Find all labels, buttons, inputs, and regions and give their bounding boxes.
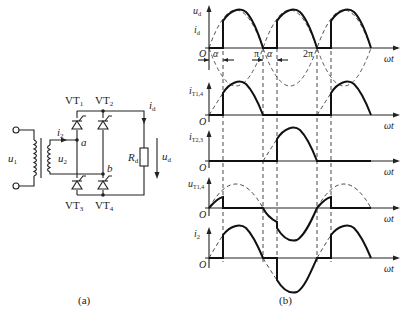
label-u2: u2	[58, 152, 68, 166]
svg-text:ωt: ωt	[384, 120, 394, 131]
tick-2pi: 2π	[303, 48, 313, 59]
x-label: ωt	[384, 53, 394, 64]
label-VT3: VT3	[65, 199, 84, 213]
label-ud: ud	[162, 150, 172, 164]
label-u1: u1	[8, 152, 18, 166]
ud-arrow-icon	[155, 172, 160, 179]
thyristor-VT3	[72, 176, 86, 190]
caption-a: (a)	[78, 294, 91, 307]
id-arrow-icon	[142, 118, 147, 124]
svg-text:ωt: ωt	[384, 263, 394, 274]
secondary-winding	[48, 145, 51, 172]
origin-label: O	[199, 48, 206, 59]
label-node-b: b	[107, 162, 113, 174]
label-VT4: VT4	[95, 199, 114, 213]
svg-text:ωt: ωt	[384, 213, 394, 224]
diagram-canvas: u1 u2 i2 a b id ud Rd VT1 VT2 VT3 VT4 (a…	[0, 0, 404, 321]
label-node-a: a	[81, 136, 87, 148]
plot-iT23: iT2,3 O ωt	[189, 128, 400, 177]
plot-uT14: uT1,4 O ωt	[188, 177, 400, 241]
svg-text:id: id	[194, 24, 201, 36]
plot-i2: i2 O ωt	[194, 226, 400, 293]
plot-ud-id: ud id O α π α 2π ωt	[193, 5, 400, 86]
resistor-Rd	[140, 148, 148, 166]
tick-alpha: α	[213, 48, 219, 59]
svg-text:i2: i2	[194, 228, 200, 240]
tick-pi-alpha: α	[267, 48, 273, 59]
plot-iT14: iT1,4 O ωt	[189, 82, 400, 131]
caption-b: (b)	[279, 294, 292, 307]
label-id: id	[149, 99, 156, 113]
svg-text:iT2,3: iT2,3	[189, 131, 203, 143]
label-VT2: VT2	[95, 94, 114, 108]
svg-text:O: O	[199, 162, 206, 173]
svg-text:O: O	[199, 116, 206, 127]
terminal-bottom	[13, 183, 19, 189]
label-i2: i2	[57, 126, 64, 140]
thyristor-VT1	[72, 116, 86, 130]
waveform-diagram: ud id O α π α 2π ωt iT1,4 O ωt	[188, 5, 400, 307]
svg-text:O: O	[199, 259, 206, 270]
circuit-diagram: u1 u2 i2 a b id ud Rd VT1 VT2 VT3 VT4 (a…	[8, 94, 172, 307]
thyristor-VT4	[98, 176, 112, 190]
svg-text:ud: ud	[193, 5, 202, 17]
svg-text:uT1,4: uT1,4	[188, 178, 204, 190]
label-Rd: Rd	[127, 151, 139, 165]
terminal-top	[13, 127, 19, 133]
thyristor-VT2	[98, 116, 112, 130]
tick-pi: π	[254, 48, 259, 59]
svg-text:ωt: ωt	[384, 166, 394, 177]
svg-text:iT1,4: iT1,4	[189, 85, 203, 97]
svg-text:O: O	[199, 209, 206, 220]
primary-winding	[34, 140, 37, 176]
label-VT1: VT1	[65, 94, 84, 108]
